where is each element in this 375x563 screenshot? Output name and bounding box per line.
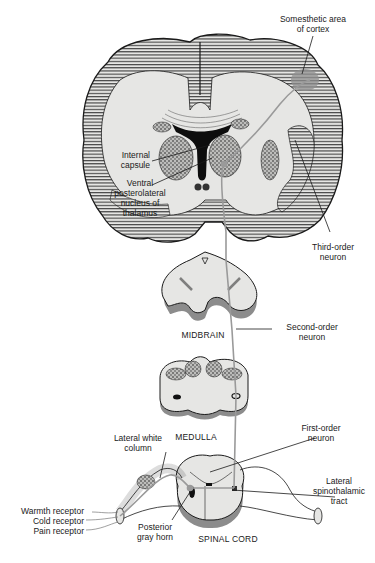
label-cold-receptor: Cold receptor [0,516,84,526]
label-spinal-cord: SPINAL CORD [188,534,268,544]
label-second-order-neuron: Second-order neuron [275,322,349,342]
midbrain-section [162,252,257,321]
label-lateral-spinothalamic-tract: Lateral spinothalamic tract [308,476,370,506]
spinal-cord-section [86,455,322,530]
label-midbrain: MIDBRAIN [168,330,238,340]
label-first-order-neuron: First-order neuron [286,423,356,443]
label-warmth-receptor: Warmth receptor [0,506,84,516]
label-internal-capsule: Internal capsule [104,150,150,170]
label-posterior-gray-horn: Posterior gray horn [130,522,180,542]
spinothalamic-pathway-diagram: Somesthetic area of cortex Internal caps… [0,0,375,563]
label-lateral-white-column: Lateral white column [106,433,170,453]
label-medulla: MEDULLA [166,432,226,442]
label-somesthetic-area: Somesthetic area of cortex [263,14,363,34]
label-third-order-neuron: Third-order neuron [302,242,364,262]
label-pain-receptor: Pain receptor [0,526,84,536]
label-vpl-nucleus: Ventral posterolateral nucleus of thalam… [104,178,176,218]
